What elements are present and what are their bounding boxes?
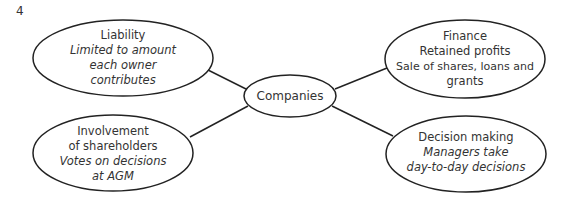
node-title: Finance: [443, 29, 487, 44]
connector-liability: [208, 70, 246, 89]
node-detail: each owner: [90, 58, 157, 73]
node-liability: Liability Limited to amount each owner c…: [33, 20, 213, 96]
node-detail: Sale of shares, loans and: [396, 59, 534, 74]
node-title: Involvement: [77, 124, 149, 139]
node-title: of shareholders: [68, 139, 157, 154]
node-title: Liability: [101, 28, 146, 43]
node-detail: Retained profits: [419, 44, 510, 59]
center-node-companies: Companies: [244, 75, 336, 117]
node-detail: Limited to amount: [70, 43, 176, 58]
node-title: Decision making: [418, 130, 513, 145]
node-detail: Managers take: [423, 145, 508, 160]
node-detail: at AGM: [92, 169, 134, 184]
node-detail: Votes on decisions: [60, 154, 167, 169]
node-detail: contributes: [90, 73, 155, 88]
connector-involvement: [190, 106, 248, 137]
connector-decision: [332, 106, 393, 136]
node-detail: day-to-day decisions: [407, 160, 526, 175]
center-label: Companies: [257, 89, 324, 104]
node-decision: Decision making Managers take day-to-day…: [386, 116, 546, 188]
node-finance: Finance Retained profits Sale of shares,…: [385, 20, 545, 98]
node-involvement: Involvement of shareholders Votes on dec…: [33, 115, 193, 192]
connector-finance: [335, 68, 387, 89]
node-detail: grants: [447, 74, 484, 89]
